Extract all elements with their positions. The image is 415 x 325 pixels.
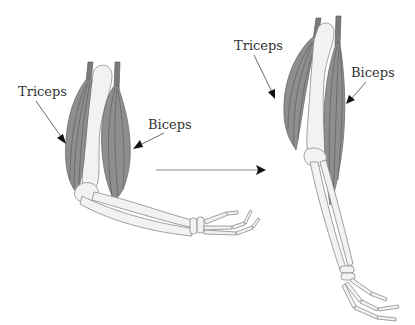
left-triceps-pointer (36, 101, 62, 138)
right-biceps-tendon (335, 16, 341, 46)
left-hand-fingers (204, 210, 260, 235)
right-arm-extended (284, 16, 399, 321)
left-biceps-arrowhead (133, 140, 143, 149)
right-biceps-label: Biceps (351, 65, 395, 80)
arm-muscle-diagram: Triceps Biceps (0, 0, 415, 325)
left-wrist (190, 217, 204, 234)
right-wrist (340, 266, 355, 280)
left-arm-flexed (65, 62, 260, 236)
left-biceps-label: Biceps (148, 117, 192, 132)
right-hand-fingers (342, 278, 399, 321)
left-triceps-arrowhead (57, 134, 66, 144)
right-triceps-label: Triceps (234, 38, 283, 53)
right-biceps-pointer (352, 82, 366, 98)
right-triceps-pointer (254, 55, 272, 92)
left-triceps-label: Triceps (18, 84, 67, 99)
right-triceps-arrowhead (268, 89, 275, 99)
left-biceps-pointer (140, 133, 164, 145)
transition-arrow (156, 165, 266, 175)
